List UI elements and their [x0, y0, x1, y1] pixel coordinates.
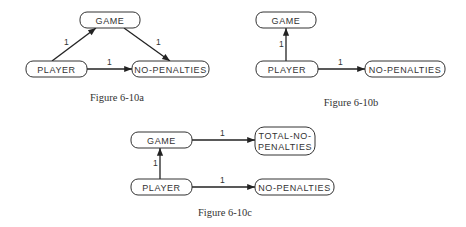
edge-label: 1	[107, 57, 112, 67]
node-label: NO-PENALTIES	[258, 183, 331, 193]
node-label-line2: PENALTIES	[258, 142, 312, 152]
node-label: GAME	[272, 16, 301, 26]
node-no-penalties: NO-PENALTIES	[365, 61, 445, 77]
edge-label: 1	[64, 37, 69, 47]
diagram-canvas: 1 1 1 GAME PLAYER NO-PENALTIES Figure 6-…	[0, 0, 466, 227]
edge-game-to-no-penalties	[124, 28, 170, 61]
figure-6-10a: 1 1 1 GAME PLAYER NO-PENALTIES Figure 6-…	[26, 12, 209, 103]
node-game: GAME	[80, 12, 140, 28]
edge-player-to-game	[52, 28, 96, 61]
node-label: GAME	[96, 16, 125, 26]
node-no-penalties: NO-PENALTIES	[255, 179, 334, 195]
node-total-no-penalties: TOTAL-NO- PENALTIES	[255, 127, 315, 155]
edge-label: 1	[153, 158, 158, 168]
edge-label: 1	[220, 175, 225, 185]
figure-caption: Figure 6-10b	[324, 97, 379, 108]
node-no-penalties: NO-PENALTIES	[132, 61, 209, 77]
node-label: GAME	[147, 136, 176, 146]
figure-caption: Figure 6-10a	[90, 92, 144, 103]
node-label: NO-PENALTIES	[134, 65, 207, 75]
node-label-line1: TOTAL-NO-	[258, 131, 311, 141]
node-label: PLAYER	[37, 65, 75, 75]
edge-label: 1	[279, 39, 284, 49]
node-player: PLAYER	[256, 61, 318, 77]
node-game: GAME	[131, 132, 192, 148]
edge-label: 1	[338, 57, 343, 67]
node-label: PLAYER	[142, 183, 180, 193]
edge-label: 1	[220, 128, 225, 138]
node-label: NO-PENALTIES	[369, 65, 442, 75]
node-player: PLAYER	[131, 179, 192, 195]
figure-6-10c: 1 1 1 GAME TOTAL-NO- PENALTIES PLAYER NO…	[131, 127, 334, 218]
node-label: PLAYER	[268, 65, 306, 75]
node-game: GAME	[256, 12, 316, 28]
figure-6-10b: 1 1 GAME PLAYER NO-PENALTIES Figure 6-10…	[256, 12, 445, 108]
edge-label: 1	[156, 37, 161, 47]
figure-caption: Figure 6-10c	[198, 207, 252, 218]
node-player: PLAYER	[26, 61, 87, 77]
